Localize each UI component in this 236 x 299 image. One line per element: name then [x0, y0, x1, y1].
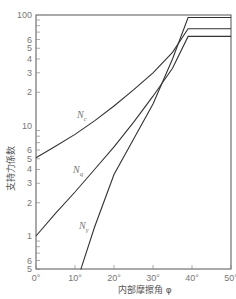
y-tick-label: 3: [27, 68, 32, 78]
x-tick-label: 20°: [107, 273, 121, 283]
y-tick-label: 3: [27, 178, 32, 188]
label-Nq: Nq: [72, 164, 84, 178]
x-tick-label: 10°: [68, 273, 82, 283]
curve-Nγ: [81, 18, 231, 270]
plot-border: [36, 15, 231, 269]
curve-Nq: [36, 36, 231, 236]
label-Nc: Nc: [76, 109, 88, 123]
x-tick-label: 50°: [224, 273, 236, 283]
y-tick-label: 5: [27, 154, 32, 164]
plot-frame: [36, 15, 231, 269]
y-axis-title: 支持力係数: [5, 146, 16, 191]
y-tick-label: 4: [27, 54, 32, 64]
y-tick-label: 10: [22, 121, 32, 131]
label-Nγ: Nγ: [78, 220, 89, 234]
y-tick-label: 1: [27, 231, 32, 241]
y-tick-label: 5: [27, 43, 32, 53]
y-tick-label: 2: [27, 87, 32, 97]
x-tick-label: 0°: [32, 273, 41, 283]
x-tick-label: 40°: [185, 273, 199, 283]
x-tick-label: 30°: [146, 273, 160, 283]
bearing-capacity-chart: 100654321065432165 0°10°20°30°40°50° NcN…: [0, 0, 236, 299]
curve-labels: NcNqNγ: [72, 109, 89, 234]
curves: [36, 18, 231, 270]
y-tick-label: 2: [27, 198, 32, 208]
x-axis-title: 内部摩擦角 φ: [118, 284, 172, 295]
y-tick-label: 4: [27, 164, 32, 174]
y-tick-label: 100: [17, 10, 32, 20]
x-axis-ticks: 0°10°20°30°40°50°: [32, 265, 236, 283]
